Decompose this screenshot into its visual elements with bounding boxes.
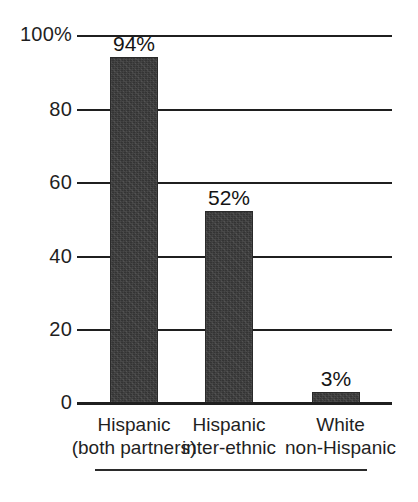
x-category-label-3-line2: non-Hispanic [278, 436, 403, 459]
bar-value-label-2: 52% [189, 187, 269, 208]
y-tick-label-60: 60 [2, 172, 72, 192]
y-tick-label-0: 0 [2, 392, 72, 412]
x-category-label-2: Hispanic inter-ethnic [174, 413, 284, 459]
y-tick-label-40: 40 [2, 246, 72, 266]
bar-hispanic-inter-ethnic [205, 211, 253, 403]
x-axis-baseline [77, 402, 392, 405]
x-category-label-3-line1: White [278, 413, 403, 436]
bar-chart: 100% 80 60 40 20 0 94% 52% 3% Hispanic (… [0, 0, 418, 502]
y-axis-tick-labels: 100% 80 60 40 20 0 [0, 0, 72, 502]
y-tick-label-80: 80 [2, 99, 72, 119]
x-category-label-3: White non-Hispanic [278, 413, 403, 459]
y-tick-label-20: 20 [2, 319, 72, 339]
bar-value-label-3: 3% [296, 368, 376, 389]
bar-hispanic-both-partners [110, 57, 158, 403]
bottom-rule-divider [95, 469, 367, 471]
x-category-label-2-line2: inter-ethnic [174, 436, 284, 459]
y-tick-label-100: 100% [2, 24, 72, 44]
x-category-label-2-line1: Hispanic [174, 413, 284, 436]
bar-value-label-1: 94% [94, 33, 174, 54]
